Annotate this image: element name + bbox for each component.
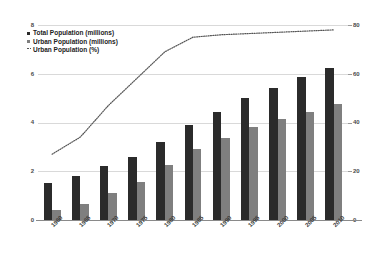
bar-urban-population [306, 112, 314, 220]
legend-item-urban-population: Urban Population (millions) [27, 38, 118, 47]
bar-total-population [44, 183, 52, 220]
legend-item-urban-percent: Urban Population (%) [27, 46, 118, 55]
bar-urban-population [249, 127, 257, 220]
y-axis-tick-left-2: 2 [22, 168, 34, 174]
bar-total-population [241, 98, 249, 220]
bar-total-population [185, 125, 193, 220]
y-axis-tick-right-40: 40 [353, 119, 371, 125]
legend-swatch-square-dark-icon [27, 32, 30, 35]
y-axis-tick-left-0: 0 [22, 217, 34, 223]
bar-urban-population [334, 104, 342, 220]
bar-urban-population [165, 165, 173, 220]
tickmark-right-80 [348, 25, 352, 26]
legend-label-urban-population: Urban Population (millions) [33, 38, 118, 47]
bar-group [325, 25, 342, 220]
bar-group [269, 25, 286, 220]
population-chart: 8 6 4 2 0 80 60 40 20 0 1960196519701975… [0, 0, 389, 272]
bar-total-population [325, 68, 333, 220]
bar-urban-population [221, 138, 229, 220]
y-axis-tick-right-60: 60 [353, 71, 371, 77]
bar-group [185, 25, 202, 220]
y-axis-tick-left-6: 6 [22, 71, 34, 77]
bar-group [156, 25, 173, 220]
bar-total-population [128, 157, 136, 220]
bar-urban-population [278, 119, 286, 220]
bar-urban-population [193, 149, 201, 220]
bar-total-population [297, 77, 305, 220]
legend-label-urban-percent: Urban Population (%) [33, 46, 99, 55]
tickmark-right-60 [348, 74, 352, 75]
bar-total-population [100, 166, 108, 220]
y-axis-tick-left-4: 4 [22, 119, 34, 125]
bar-group [297, 25, 314, 220]
bar-group [128, 25, 145, 220]
tickmark-right-40 [348, 123, 352, 124]
bar-total-population [213, 112, 221, 220]
y-axis-tick-right-20: 20 [353, 168, 371, 174]
bar-group [213, 25, 230, 220]
bar-total-population [269, 88, 277, 220]
legend-item-total-population: Total Population (millions) [27, 29, 118, 38]
bar-group [241, 25, 258, 220]
legend-label-total-population: Total Population (millions) [33, 29, 114, 38]
bar-total-population [72, 176, 80, 220]
legend-swatch-dotted-line-icon [27, 48, 31, 52]
bar-total-population [156, 142, 164, 220]
chart-legend: Total Population (millions) Urban Popula… [27, 29, 118, 55]
y-axis-tick-left-8: 8 [22, 22, 34, 28]
tickmark-right-20 [348, 171, 352, 172]
y-axis-tick-right-80: 80 [353, 22, 371, 28]
legend-swatch-square-gray-icon [27, 40, 30, 43]
